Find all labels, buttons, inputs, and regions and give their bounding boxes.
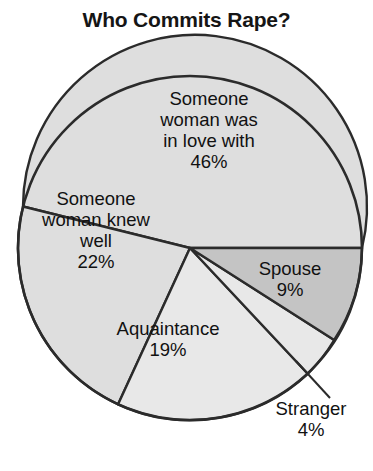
slice-value-stranger: 4%: [256, 419, 366, 440]
slice-label-line-1: Spouse: [259, 258, 322, 279]
slice-label-aquaintance: Aquaintance 19%: [106, 318, 230, 360]
slice-label-line-1: Someone: [169, 88, 248, 109]
slice-label-line-2: woman knew: [42, 209, 150, 230]
pie-chart-figure: Who Commits Rape? Someone woman was in l…: [0, 0, 373, 471]
slice-value-aquaintance: 19%: [106, 339, 230, 360]
slice-label-spouse: Spouse 9%: [247, 258, 333, 300]
slice-label-line-1: Someone: [56, 188, 135, 209]
slice-label-line-1: Stranger: [276, 398, 347, 419]
slice-label-stranger: Stranger 4%: [256, 398, 366, 440]
slice-value-spouse: 9%: [247, 279, 333, 300]
slice-value-someone-in-love-with: 46%: [150, 151, 268, 172]
slice-value-someone-knew-well: 22%: [28, 251, 164, 272]
slice-label-someone-in-love-with: Someone woman was in love with 46%: [150, 88, 268, 172]
slice-label-line-1: Aquaintance: [117, 318, 220, 339]
slice-label-line-2: woman was: [160, 109, 258, 130]
slice-label-someone-knew-well: Someone woman knew well 22%: [28, 188, 164, 272]
slice-label-line-3: well: [80, 230, 112, 251]
slice-label-line-3: in love with: [163, 130, 255, 151]
